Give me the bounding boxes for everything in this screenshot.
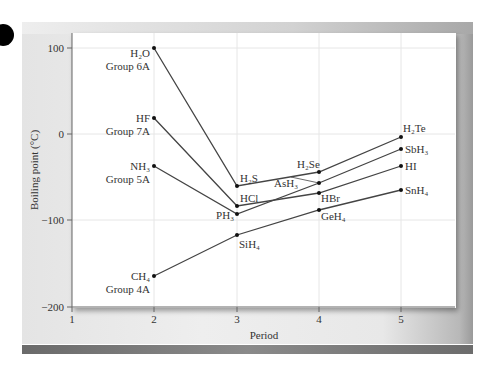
label-snh4: SnH₄ xyxy=(405,184,429,196)
x-axis-title: Period xyxy=(250,329,279,341)
boiling-point-chart: 100 0 −100 −200 1 2 3 4 5 Period Boiling… xyxy=(0,0,492,373)
label-hf: HF xyxy=(136,112,150,124)
series-group-7a xyxy=(154,118,401,206)
y-axis-title: Boiling point (°C) xyxy=(28,130,41,211)
y-tick-minus-200: −200 xyxy=(41,301,64,313)
label-ph3: PH₃ xyxy=(216,209,234,221)
label-hi: HI xyxy=(405,160,417,172)
label-hcl: HCl xyxy=(240,192,258,204)
label-hbr: HBr xyxy=(321,192,340,204)
label-group-5a: Group 5A xyxy=(106,173,150,185)
series-group-6a xyxy=(154,48,401,186)
x-tick-1: 1 xyxy=(69,313,75,325)
label-group-4a: Group 4A xyxy=(106,283,150,295)
label-h2te: H₂Te xyxy=(403,122,426,134)
label-h2se: H₂Se xyxy=(297,158,320,170)
series-lines xyxy=(154,48,401,276)
label-group-6a: Group 6A xyxy=(106,60,150,72)
series-group-4a xyxy=(154,190,401,276)
x-tick-4: 4 xyxy=(316,313,322,325)
label-nh3: NH₃ xyxy=(130,160,150,172)
x-tick-2: 2 xyxy=(151,313,157,325)
label-group-7a: Group 7A xyxy=(106,125,150,137)
x-tick-3: 3 xyxy=(234,313,240,325)
label-h2o: H₂O xyxy=(130,47,150,59)
label-sih4: SiH₄ xyxy=(239,238,260,250)
data-markers xyxy=(152,46,403,278)
label-h2s: H₂S xyxy=(240,172,258,184)
label-ash3: AsH₃ xyxy=(274,177,298,189)
x-tick-5: 5 xyxy=(398,313,404,325)
y-tick-0: 0 xyxy=(59,128,65,140)
label-geh4: GeH₄ xyxy=(321,210,346,222)
label-sbh3: SbH₃ xyxy=(405,143,429,155)
label-ch4: CH₄ xyxy=(131,270,150,282)
y-tick-minus-100: −100 xyxy=(41,214,64,226)
y-tick-100: 100 xyxy=(48,42,65,54)
